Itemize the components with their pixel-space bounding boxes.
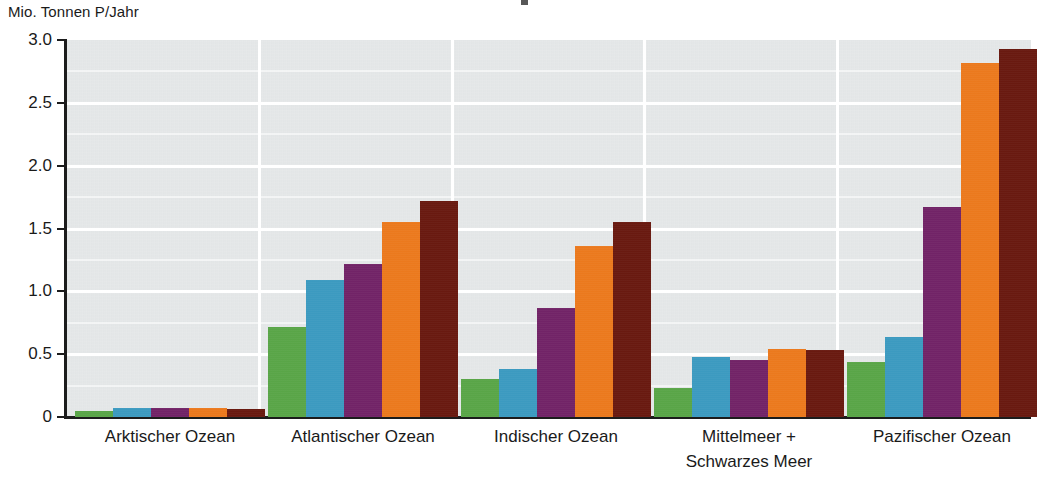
y-tick-label-2.5: 2.5 xyxy=(0,94,52,111)
bar xyxy=(768,349,806,417)
y-tick-mark xyxy=(57,39,67,41)
bar-group xyxy=(461,40,651,417)
bar xyxy=(999,49,1037,417)
bar xyxy=(499,369,537,417)
bar xyxy=(461,379,499,417)
bar xyxy=(113,408,151,417)
bar xyxy=(537,308,575,417)
y-tick-label-2.0: 2.0 xyxy=(0,157,52,174)
y-tick-mark xyxy=(57,416,67,418)
bar xyxy=(613,222,651,417)
bar xyxy=(75,411,113,417)
y-tick-mark xyxy=(57,228,67,230)
bar xyxy=(151,408,189,417)
bar xyxy=(654,388,692,417)
bar xyxy=(268,327,306,417)
y-tick-label-0: 0 xyxy=(0,408,52,425)
y-tick-label-3.0: 3.0 xyxy=(0,31,52,48)
x-tick-label-line: Mittelmeer + xyxy=(702,427,796,446)
bar-group xyxy=(654,40,844,417)
x-tick-label-line: Atlantischer Ozean xyxy=(291,427,435,446)
x-tick-label-line: Arktischer Ozean xyxy=(105,427,235,446)
bar xyxy=(923,207,961,417)
bar xyxy=(227,409,265,417)
bar xyxy=(575,246,613,417)
y-tick-label-1.0: 1.0 xyxy=(0,282,52,299)
bar xyxy=(847,362,885,417)
y-tick-label-1.5: 1.5 xyxy=(0,220,52,237)
bar-group xyxy=(847,40,1037,417)
bar xyxy=(961,63,999,417)
x-tick-label: Pazifischer Ozean xyxy=(827,424,1044,449)
bar xyxy=(382,222,420,417)
bar xyxy=(420,201,458,417)
bar xyxy=(885,337,923,417)
bar-chart: Mio. Tonnen P/Jahr 00.51.01.52.02.53.0 A… xyxy=(0,0,1044,478)
y-tick-mark xyxy=(57,353,67,355)
bar xyxy=(692,357,730,417)
y-tick-label-0.5: 0.5 xyxy=(0,345,52,362)
bar xyxy=(806,350,844,417)
x-axis-tick-labels: Arktischer OzeanAtlantischer OzeanIndisc… xyxy=(67,424,1031,478)
x-tick-label-line: Indischer Ozean xyxy=(494,427,618,446)
x-tick-label-line: Schwarzes Meer xyxy=(634,449,864,474)
bar xyxy=(344,264,382,417)
bars-layer xyxy=(67,40,1031,417)
bar-group xyxy=(268,40,458,417)
x-tick-label-line: Pazifischer Ozean xyxy=(873,427,1011,446)
top-crop-artifact xyxy=(521,0,528,5)
bar xyxy=(189,408,227,417)
bar xyxy=(306,280,344,417)
y-tick-mark xyxy=(57,102,67,104)
y-axis-tick-labels: 00.51.01.52.02.53.0 xyxy=(0,0,52,478)
bar xyxy=(730,360,768,417)
y-tick-mark xyxy=(57,290,67,292)
y-tick-mark xyxy=(57,165,67,167)
bar-group xyxy=(75,40,265,417)
